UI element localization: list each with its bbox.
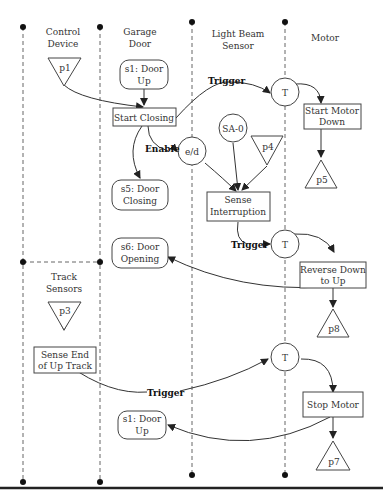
state-label-1: s1: Door xyxy=(123,414,162,424)
activity-label: Start Closing xyxy=(114,113,174,123)
activity-label-2: to Up xyxy=(320,276,345,286)
sequence-diagram: Control Device Garage Door Light Beam Se… xyxy=(0,0,383,503)
lane-dot xyxy=(20,24,26,30)
ed-label: e/d xyxy=(185,147,199,157)
lane-dot xyxy=(97,259,103,265)
sa0-node: SA-0 xyxy=(219,114,247,142)
lane-label-track-sensors-1: Track xyxy=(51,272,78,282)
place-p3: p3 xyxy=(48,302,81,330)
enable-disable-node: e/d xyxy=(178,137,206,165)
edge-label-trigger-3: Trigger xyxy=(147,388,185,398)
lane-label-light-beam-1: Light Beam xyxy=(212,29,265,39)
state-s1-door-up-top: s1: Door Up xyxy=(120,60,168,89)
transition-t3: T xyxy=(271,343,299,371)
transition-label: T xyxy=(282,88,288,98)
transition-label: T xyxy=(282,353,288,363)
lane-dot xyxy=(97,24,103,30)
activity-start-closing: Start Closing xyxy=(113,108,176,126)
edge-start-closing-t1 xyxy=(176,82,270,118)
place-label: p4 xyxy=(262,142,274,152)
place-label: p7 xyxy=(328,457,340,467)
edge-trigger-t3 xyxy=(180,359,268,391)
edge-t2-reverse xyxy=(294,234,334,252)
transition-label: T xyxy=(282,240,288,250)
lane-label-control-device-2: Device xyxy=(48,39,79,49)
activity-label-1: Reverse Down xyxy=(300,265,366,275)
place-label: p1 xyxy=(59,63,71,73)
lane-dot xyxy=(20,479,26,485)
edge-p4-sense xyxy=(242,166,267,190)
activity-stop-motor: Stop Motor xyxy=(303,392,363,417)
sa0-label: SA-0 xyxy=(222,124,244,134)
edge-start-closing-s5 xyxy=(133,126,142,178)
lane-label-light-beam-2: Sensor xyxy=(222,41,254,51)
state-s5-door-closing: s5: Door Closing xyxy=(112,180,168,210)
activity-sense-interruption: Sense Interruption xyxy=(207,192,270,221)
activity-label-2: Interruption xyxy=(210,207,266,217)
place-label: p8 xyxy=(328,324,340,334)
edges xyxy=(64,82,334,441)
lane-dot xyxy=(189,19,195,25)
lane-dot xyxy=(20,259,26,265)
place-p4: p4 xyxy=(251,136,283,165)
activity-label: Stop Motor xyxy=(307,400,359,410)
place-p5: p5 xyxy=(305,160,337,188)
activity-label-1: Sense xyxy=(224,195,251,205)
lane-dot xyxy=(97,479,103,485)
edge-sa0-sense xyxy=(233,143,238,190)
state-label-1: s6: Door xyxy=(121,242,160,252)
activity-start-motor-down: Start Motor Down xyxy=(304,104,361,129)
lane-dot xyxy=(282,19,288,25)
activity-label-2: of Up Track xyxy=(38,361,93,371)
place-label: p3 xyxy=(59,306,71,316)
lane-dot xyxy=(282,472,288,478)
edge-label-trigger-2: Trigger xyxy=(231,240,269,250)
edge-label-enable: Enable xyxy=(145,144,180,154)
state-label-2: Up xyxy=(137,76,151,86)
state-label-2: Up xyxy=(135,426,149,436)
activity-label-1: Sense End xyxy=(41,350,89,360)
edge-ed-sense xyxy=(205,163,236,191)
transition-t2: T xyxy=(271,230,299,258)
state-label-1: s1: Door xyxy=(125,64,164,74)
edge-t3-stop-motor xyxy=(301,359,333,392)
transition-t1: T xyxy=(271,78,299,106)
activity-reverse-down-to-up: Reverse Down to Up xyxy=(300,262,366,288)
state-label-2: Opening xyxy=(121,254,160,264)
lane-label-garage-door-2: Door xyxy=(129,39,152,49)
place-p7: p7 xyxy=(316,441,350,470)
edge-label-trigger-1: Trigger xyxy=(208,76,246,86)
place-p8: p8 xyxy=(317,309,349,337)
lane-label-motor: Motor xyxy=(311,33,340,43)
place-label: p5 xyxy=(316,175,328,185)
state-s6-door-opening: s6: Door Opening xyxy=(112,238,168,268)
lane-label-garage-door-1: Garage xyxy=(123,27,156,37)
activity-label-1: Start Motor xyxy=(305,106,360,116)
activity-sense-end-of-up-track: Sense End of Up Track xyxy=(34,347,96,373)
state-s1-door-up-bottom: s1: Door Up xyxy=(118,411,166,439)
lane-label-track-sensors-2: Sensors xyxy=(46,284,83,294)
state-label-1: s5: Door xyxy=(121,184,160,194)
lane-label-control-device-1: Control xyxy=(46,27,80,37)
place-p1: p1 xyxy=(48,58,81,86)
activity-label-2: Down xyxy=(319,117,345,127)
state-label-2: Closing xyxy=(123,196,157,206)
lane-dot xyxy=(189,472,195,478)
